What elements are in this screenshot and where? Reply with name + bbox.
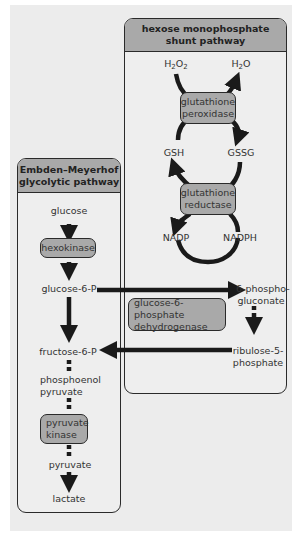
ribulose-5-phosphate-label: ribulose-5-phosphate <box>230 345 286 369</box>
nadph-to-reductase <box>230 214 238 232</box>
gsh-label: GSH <box>160 147 188 159</box>
phosphoenol-pyruvate-label: phosphoenolpyruvate <box>40 374 100 398</box>
glutathione-reductase-enzyme: glutathionereductase <box>180 183 236 215</box>
nadp-label: NADP <box>160 232 192 244</box>
hexokinase-enzyme: hexokinase <box>40 238 96 258</box>
pyruvate-kinase-enzyme: pyruvatekinase <box>40 414 88 444</box>
glucose-6-p-label: glucose-6-P <box>40 283 98 295</box>
g6pd-enzyme: glucose-6-phosphatedehydrogenase <box>128 298 226 331</box>
glutathione-peroxidase-enzyme: glutathioneperoxidase <box>180 92 236 124</box>
h2o2-label: H2O2 <box>160 58 192 70</box>
glucose-label: glucose <box>40 205 98 217</box>
pyruvate-label: pyruvate <box>40 459 100 471</box>
6-phosphogluconate-label: 6-phospho-gluconate <box>236 283 286 307</box>
fructose-6-p-label: fructose-6-P <box>36 346 100 358</box>
h2o-label: H2O <box>226 58 256 70</box>
gssg-label: GSSG <box>224 147 258 159</box>
pathway-arrows <box>0 0 302 537</box>
lactate-label: lactate <box>40 493 98 505</box>
nadph-label: NADPH <box>220 232 260 244</box>
reductase-to-nadp-arrow <box>176 214 190 228</box>
